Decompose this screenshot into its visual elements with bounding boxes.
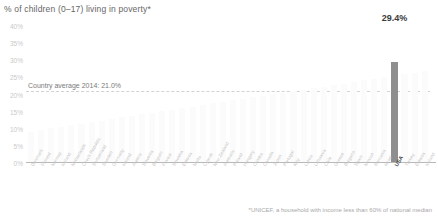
x-label-slot: Slovakia — [167, 164, 177, 198]
bar-slot — [319, 26, 329, 163]
bar-item[interactable] — [422, 71, 428, 163]
bar-item[interactable] — [311, 88, 317, 163]
x-label-slot: Netherlands — [66, 164, 76, 198]
x-label-slot: Japan — [268, 164, 278, 198]
x-label-slot: Greece — [329, 164, 339, 198]
bar-item[interactable] — [412, 73, 418, 163]
x-axis-labels: DenmarkFinlandNorwayIcelandNetherlandsCz… — [26, 164, 430, 198]
bar-item[interactable] — [331, 85, 337, 163]
bar-slot — [339, 26, 349, 163]
bar-slot — [177, 26, 187, 163]
chart-footnote: *UNICEF, a household with income less th… — [249, 207, 432, 213]
bar-slot — [258, 26, 268, 163]
x-label-slot: Denmark — [26, 164, 36, 198]
x-label-slot: Ireland — [117, 164, 127, 198]
y-axis-tick-0: 0% — [14, 160, 23, 167]
x-label-slot: Czech Republic — [76, 164, 86, 198]
bar-item[interactable] — [341, 84, 347, 163]
x-label-slot: Latvia — [299, 164, 309, 198]
bar-slot — [208, 26, 218, 163]
x-label-slot: Slovenia — [137, 164, 147, 198]
x-label-slot: Australia — [218, 164, 228, 198]
bar-slot — [147, 26, 157, 163]
bar-slot — [349, 26, 359, 163]
bar-slot — [248, 26, 258, 163]
bar-slot — [117, 26, 127, 163]
x-label-slot: Germany — [107, 164, 117, 198]
x-label-slot: New Zealand — [208, 164, 218, 198]
y-axis-tick-15: 15% — [10, 108, 23, 115]
chart-title: % of children (0–17) living in poverty* — [4, 4, 151, 14]
x-label-slot: Sweden — [97, 164, 107, 198]
bar-slot — [157, 26, 167, 163]
bar-slot — [26, 26, 36, 163]
bar-slot — [167, 26, 177, 163]
x-label-slot: Portugal — [278, 164, 288, 198]
x-label-slot: Malta — [188, 164, 198, 198]
bar-usa-highlight[interactable]: 29.4% — [391, 62, 398, 163]
bar-slot — [137, 26, 147, 163]
y-axis-tick-20: 20% — [10, 91, 23, 98]
x-label-slot: Romania — [369, 164, 379, 198]
bar-slot — [309, 26, 319, 163]
bar-slot — [46, 26, 56, 163]
bar-item[interactable] — [371, 79, 377, 163]
y-axis-tick-25: 25% — [10, 74, 23, 81]
x-label-slot: Iceland — [56, 164, 66, 198]
bar-value-label: 29.4% — [382, 13, 408, 23]
x-label-slot: Poland — [228, 164, 238, 198]
x-label-slot: Belgium — [147, 164, 157, 198]
x-label-slot: Austria — [127, 164, 137, 198]
y-axis-tick-10: 10% — [10, 125, 23, 132]
bar-slot — [66, 26, 76, 163]
y-axis-tick-40: 40% — [10, 23, 23, 30]
x-label-slot: Canada — [258, 164, 268, 198]
bar-item[interactable] — [401, 74, 407, 163]
bar-slot — [359, 26, 369, 163]
x-label-slot: Chile — [319, 164, 329, 198]
x-label-slot: Finland — [36, 164, 46, 198]
bar-slot — [127, 26, 137, 163]
bar-slot — [369, 26, 379, 163]
bar-slot — [56, 26, 66, 163]
bar-slot — [107, 26, 117, 163]
bar-slot — [278, 26, 288, 163]
y-axis-tick-5: 5% — [14, 142, 23, 149]
y-axis-tick-30: 30% — [10, 57, 23, 64]
bar-item[interactable] — [280, 93, 286, 163]
bar-slot — [288, 26, 298, 163]
x-label-slot: Lithuania — [309, 164, 319, 198]
x-label-slot: Turkey — [399, 164, 409, 198]
bar-item[interactable] — [361, 80, 367, 163]
x-label-slot: Mexico — [359, 164, 369, 198]
x-label-slot: Switzerland — [87, 164, 97, 198]
bar-slot — [329, 26, 339, 163]
bar-slot: 29.4% — [389, 26, 399, 163]
bar-slot — [410, 26, 420, 163]
bar-slot — [299, 26, 309, 163]
x-label-slot: Cyprus — [198, 164, 208, 198]
x-label-slot: Estonia — [177, 164, 187, 198]
x-label-slot: France — [157, 164, 167, 198]
x-label-slot: Spain — [349, 164, 359, 198]
x-label-slot: Bulgaria — [339, 164, 349, 198]
x-label-slot: Hungary — [238, 164, 248, 198]
x-label-slot: Israel — [379, 164, 389, 198]
x-label-slot: Iceland — [420, 164, 430, 198]
bar-slot — [379, 26, 389, 163]
x-label-slot: Estonia — [410, 164, 420, 198]
bar-slot — [399, 26, 409, 163]
x-label-slot: Norway — [46, 164, 56, 198]
bar-slot — [198, 26, 208, 163]
x-label-slot: Croatia — [248, 164, 258, 198]
x-label-slot: Italy — [288, 164, 298, 198]
bar-item[interactable] — [200, 105, 206, 163]
bar-slot — [420, 26, 430, 163]
bar-item[interactable] — [301, 90, 307, 163]
x-label-slot: USA — [389, 164, 399, 198]
bar-slot — [238, 26, 248, 163]
y-axis-tick-35: 35% — [10, 40, 23, 47]
bar-slot — [36, 26, 46, 163]
bar-slot — [268, 26, 278, 163]
bar-slot — [188, 26, 198, 163]
